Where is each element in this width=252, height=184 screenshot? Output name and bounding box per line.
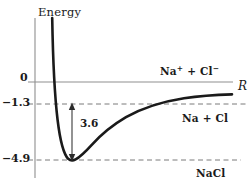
- well-depth-arrow: [69, 103, 75, 162]
- plot-canvas: [0, 0, 252, 184]
- y-axis-title: Energy: [38, 7, 81, 19]
- label-ion-pair-na: Na: [160, 65, 177, 77]
- potential-energy-curve: [52, 18, 232, 160]
- y-tick-label-atoms: −1.3: [2, 97, 30, 108]
- label-molecule: NaCl: [196, 168, 226, 179]
- x-axis-title: R: [238, 80, 247, 92]
- potential-energy-diagram: Energy R 0 −1.3 −4.9 Na+ + Cl− Na + Cl N…: [0, 0, 252, 184]
- label-ion-pair-cl: + Cl: [183, 65, 212, 77]
- label-ion-pair: Na+ + Cl−: [160, 66, 219, 77]
- y-tick-label-minimum: −4.9: [2, 153, 30, 164]
- label-neutral-atoms: Na + Cl: [182, 113, 228, 124]
- label-ion-pair-minus: −: [213, 64, 219, 73]
- y-tick-label-zero: 0: [20, 72, 28, 83]
- label-well-depth: 3.6: [80, 118, 98, 129]
